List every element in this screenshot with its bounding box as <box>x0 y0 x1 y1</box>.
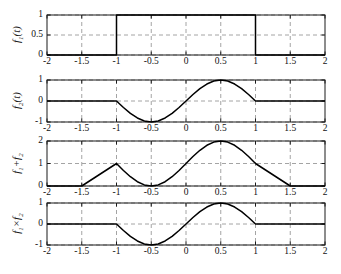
axes-box <box>47 141 325 186</box>
plot-svg-4 <box>0 0 341 274</box>
ylabel-text: f1+f2 <box>9 153 24 174</box>
data-curve <box>47 15 325 55</box>
xtick-label: 1.5 <box>277 123 303 133</box>
xtick-label: 0 <box>173 246 199 256</box>
xtick-label: 1 <box>243 123 269 133</box>
ytick-label: 0 <box>27 49 43 59</box>
data-curve <box>47 80 325 122</box>
ytick-label: 2 <box>27 135 43 145</box>
xtick-label: -0.5 <box>138 123 164 133</box>
ytick-label: 1 <box>27 74 43 84</box>
xtick-label: 0.5 <box>208 56 234 66</box>
ylabel-text: f1(t) <box>9 26 24 43</box>
xtick-label: -2 <box>34 123 60 133</box>
ylabel-subscript: 1 <box>17 37 25 41</box>
ytick-label: 0 <box>27 95 43 105</box>
ylabel-tail: (t) <box>9 92 21 102</box>
plot-background <box>47 80 325 122</box>
ytick-label: 0 <box>27 218 43 228</box>
xtick-label: 1 <box>243 187 269 197</box>
ylabel-base: f <box>9 106 21 109</box>
ylabel-tail: +f <box>9 156 21 166</box>
plot-background <box>47 203 325 245</box>
xtick-label: -1 <box>104 56 130 66</box>
xtick-label: -1.5 <box>69 187 95 197</box>
xtick-label: -1 <box>104 123 130 133</box>
axes-box <box>47 15 325 55</box>
xtick-label: -1.5 <box>69 56 95 66</box>
ytick-label: -1 <box>27 239 43 249</box>
xtick-label: 1.5 <box>277 187 303 197</box>
plot-background <box>47 141 325 186</box>
plot-panel-1: 00.51-2-1.5-1-0.500.511.52f1(t) <box>0 0 341 274</box>
xtick-label: 0.5 <box>208 246 234 256</box>
ytick-label: 0.5 <box>27 29 43 39</box>
xtick-label: -2 <box>34 187 60 197</box>
figure-container: 00.51-2-1.5-1-0.500.511.52f1(t)-101-2-1.… <box>0 0 341 274</box>
ylabel-4: f1×f2 <box>2 216 32 231</box>
ylabel-3: f1+f2 <box>2 156 32 171</box>
plot-panel-3: 012-2-1.5-1-0.500.511.52f1+f2 <box>0 0 341 274</box>
xtick-label: -2 <box>34 246 60 256</box>
xtick-label: 0.5 <box>208 187 234 197</box>
ytick-label: 1 <box>27 158 43 168</box>
ylabel-subscript: 1 <box>17 227 25 231</box>
xtick-label: -1 <box>104 187 130 197</box>
xtick-label: 1.5 <box>277 56 303 66</box>
data-curve <box>47 141 325 186</box>
xtick-label: -1.5 <box>69 123 95 133</box>
xtick-label: 1 <box>243 56 269 66</box>
xtick-label: 1 <box>243 246 269 256</box>
ylabel-2: f2(t) <box>2 93 32 108</box>
ylabel-text: f1×f2 <box>9 213 24 234</box>
ylabel-base: f <box>9 231 21 234</box>
ylabel-subscript-2: 2 <box>17 153 25 157</box>
xtick-label: 0.5 <box>208 123 234 133</box>
xtick-label: 2 <box>312 56 338 66</box>
ylabel-tail: ×f <box>9 217 21 227</box>
plot-background <box>47 15 325 55</box>
xtick-label: 0 <box>173 123 199 133</box>
axes-box <box>47 203 325 245</box>
plot-panel-2: -101-2-1.5-1-0.500.511.52f2(t) <box>0 0 341 274</box>
xtick-label: 2 <box>312 123 338 133</box>
ylabel-tail: (t) <box>9 26 21 36</box>
ytick-label: 1 <box>27 197 43 207</box>
ylabel-text: f2(t) <box>9 92 24 109</box>
ylabel-base: f <box>9 170 21 173</box>
axes-box <box>47 80 325 122</box>
xtick-label: -1.5 <box>69 246 95 256</box>
data-curve <box>47 203 325 245</box>
xtick-label: 2 <box>312 246 338 256</box>
xtick-label: -0.5 <box>138 56 164 66</box>
plot-panel-4: -101-2-1.5-1-0.500.511.52f1×f2 <box>0 0 341 274</box>
xtick-label: 2 <box>312 187 338 197</box>
ylabel-subscript: 1 <box>17 167 25 171</box>
ytick-label: -1 <box>27 116 43 126</box>
xtick-label: -2 <box>34 56 60 66</box>
plot-svg-1 <box>0 0 341 274</box>
ylabel-1: f1(t) <box>2 27 32 42</box>
xtick-label: -0.5 <box>138 187 164 197</box>
xtick-label: 0 <box>173 56 199 66</box>
plot-svg-2 <box>0 0 341 274</box>
plot-svg-3 <box>0 0 341 274</box>
ylabel-subscript: 2 <box>17 103 25 107</box>
ytick-label: 0 <box>27 180 43 190</box>
ylabel-base: f <box>9 40 21 43</box>
xtick-label: 1.5 <box>277 246 303 256</box>
xtick-label: -0.5 <box>138 246 164 256</box>
xtick-label: -1 <box>104 246 130 256</box>
xtick-label: 0 <box>173 187 199 197</box>
ytick-label: 1 <box>27 9 43 19</box>
ylabel-subscript-2: 2 <box>17 213 25 217</box>
